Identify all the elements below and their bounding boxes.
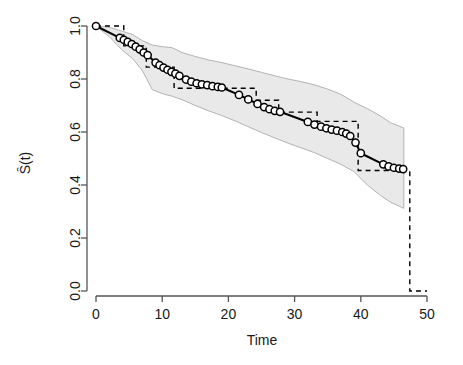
y-tick-label: 0.2 [67, 228, 83, 248]
x-tick-label: 40 [353, 306, 369, 322]
y-axis-title: Ŝ(t) [17, 152, 33, 175]
y-tick-label: 0.6 [67, 122, 83, 142]
x-tick-label: 30 [287, 306, 303, 322]
x-tick-label: 10 [154, 306, 170, 322]
survival-plot: 01020304050 0.00.20.40.60.81.0 Time Ŝ(t… [0, 0, 463, 365]
y-tick-label: 0.0 [67, 281, 83, 301]
x-axis-title: Time [247, 332, 278, 348]
y-tick-label: 1.0 [67, 16, 83, 36]
y-tick-label: 0.4 [67, 175, 83, 195]
y-tick-label: 0.8 [67, 69, 83, 89]
x-tick-label: 20 [221, 306, 237, 322]
chart-canvas: 01020304050 0.00.20.40.60.81.0 Time Ŝ(t… [0, 0, 463, 365]
x-tick-label: 0 [92, 306, 100, 322]
x-tick-label: 50 [419, 306, 435, 322]
